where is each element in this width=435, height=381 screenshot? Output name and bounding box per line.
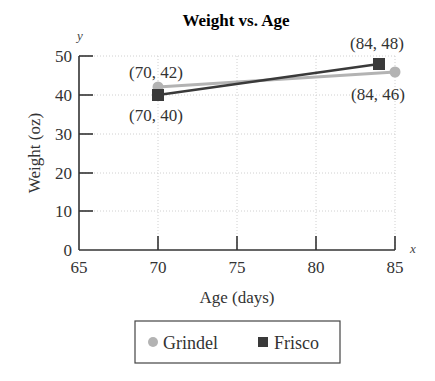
svg-text:40: 40 xyxy=(55,86,72,105)
frisco-legend-marker xyxy=(258,337,268,347)
grindel-legend-marker xyxy=(148,337,158,347)
svg-text:75: 75 xyxy=(229,258,246,277)
svg-text:20: 20 xyxy=(55,164,72,183)
y-tick-labels: 50 40 30 20 10 0 xyxy=(55,47,72,260)
annotation-84-46: (84, 46) xyxy=(351,85,405,104)
chart-title: Weight vs. Age xyxy=(182,11,290,30)
legend-frisco: Frisco xyxy=(274,333,319,353)
legend-grindel: Grindel xyxy=(163,333,218,353)
y-axis-variable: y xyxy=(75,28,83,43)
chart-canvas: Weight vs. Age y x 50 40 30 20 10 0 65 7… xyxy=(0,0,435,381)
svg-text:85: 85 xyxy=(387,258,404,277)
x-axis-variable: x xyxy=(409,241,416,256)
y-axis-label: Weight (oz) xyxy=(25,113,44,193)
svg-text:65: 65 xyxy=(71,258,88,277)
x-axis-label: Age (days) xyxy=(199,288,274,307)
annotation-70-40: (70, 40) xyxy=(129,106,183,125)
annotation-70-42: (70, 42) xyxy=(129,63,183,82)
svg-text:50: 50 xyxy=(55,47,72,66)
svg-text:10: 10 xyxy=(55,202,72,221)
legend: Grindel Frisco xyxy=(135,321,340,363)
svg-text:30: 30 xyxy=(55,125,72,144)
x-tick-labels: 65 70 75 80 85 xyxy=(71,258,404,277)
annotation-84-48: (84, 48) xyxy=(350,34,404,53)
svg-text:80: 80 xyxy=(308,258,325,277)
svg-text:70: 70 xyxy=(150,258,167,277)
